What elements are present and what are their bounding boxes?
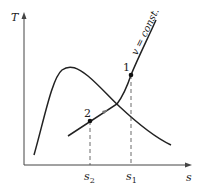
y-axis-label: T	[11, 11, 20, 24]
ts-diagram: T s v = const. 1 2 s2 s1	[0, 0, 204, 188]
curve-label: v = const.	[129, 6, 161, 56]
x-axis-arrow-icon	[185, 163, 192, 168]
point-1-label: 1	[123, 61, 130, 74]
point-2-label: 2	[84, 107, 91, 120]
tick-s1: s1	[126, 170, 137, 185]
tick-s2: s2	[84, 170, 95, 185]
axes	[22, 12, 193, 168]
y-axis-arrow-icon	[22, 12, 27, 19]
tick-s2-sub: 2	[90, 176, 95, 185]
tick-s1-sub: 1	[132, 176, 137, 185]
x-axis-label: s	[186, 171, 192, 184]
